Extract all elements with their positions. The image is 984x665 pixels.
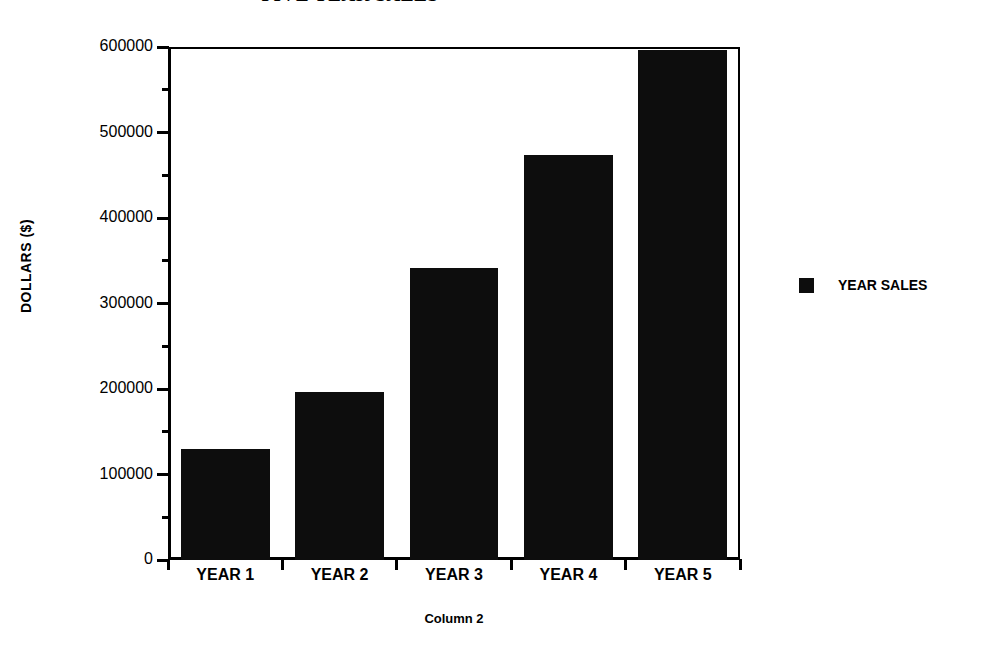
x-axis-tick-label: YEAR 1 <box>165 566 285 584</box>
y-axis-major-tick <box>157 131 169 134</box>
y-axis-minor-tick <box>162 174 169 177</box>
bar <box>524 155 613 560</box>
legend-label: YEAR SALES <box>838 277 927 293</box>
bar-chart: FIVE YEAR SALES 010000020000030000040000… <box>0 0 984 665</box>
y-axis-minor-tick <box>162 345 169 348</box>
x-axis-tick-labels: YEAR 1YEAR 2YEAR 3YEAR 4YEAR 5 <box>168 566 740 592</box>
y-axis-major-tick <box>157 217 169 220</box>
bars-layer <box>168 47 740 560</box>
y-axis-minor-tick <box>162 430 169 433</box>
bar <box>410 268 499 560</box>
y-axis-tick-label: 400000 <box>53 208 153 226</box>
chart-legend: YEAR SALES <box>799 277 927 293</box>
y-axis-tick-label: 200000 <box>53 379 153 397</box>
legend-swatch-icon <box>799 278 814 293</box>
bar <box>181 449 270 560</box>
y-axis-major-tick <box>157 302 169 305</box>
y-axis-minor-tick <box>162 259 169 262</box>
x-axis-tick-label: YEAR 2 <box>280 566 400 584</box>
bar <box>638 50 727 560</box>
y-axis-major-tick <box>157 473 169 476</box>
y-axis-title: DOLLARS ($) <box>18 196 34 336</box>
y-axis-major-tick <box>157 46 169 49</box>
y-axis-tick-label: 0 <box>53 550 153 568</box>
x-axis-tick-label: YEAR 3 <box>394 566 514 584</box>
x-axis-tick-label: YEAR 5 <box>623 566 743 584</box>
x-axis-title: Column 2 <box>168 611 740 626</box>
y-axis-major-tick <box>157 388 169 391</box>
y-axis-minor-tick <box>162 88 169 91</box>
y-axis-tick-label: 300000 <box>53 294 153 312</box>
y-axis-tick-labels: 0100000200000300000400000500000600000 <box>48 0 153 665</box>
y-axis-tick-label: 100000 <box>53 465 153 483</box>
y-axis-tick-label: 600000 <box>53 37 153 55</box>
y-axis-minor-tick <box>162 516 169 519</box>
y-axis-tick-label: 500000 <box>53 123 153 141</box>
bar <box>295 392 384 560</box>
x-axis-tick-label: YEAR 4 <box>508 566 628 584</box>
